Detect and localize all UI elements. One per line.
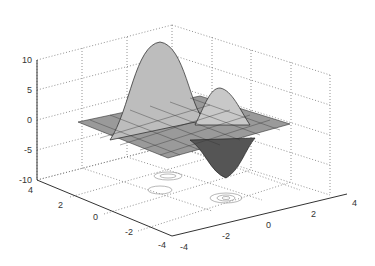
z-tick-label: 5 <box>27 85 32 95</box>
y-tick-label: 4 <box>28 185 33 195</box>
x-tick-label: -2 <box>222 231 230 241</box>
x-axis: -4 -2 0 2 4 <box>172 194 357 252</box>
y-tick-label: 2 <box>58 200 63 210</box>
surface-plot: 10 5 0 -5 -10 4 2 0 -2 -4 -4 -2 0 2 4 <box>0 0 375 266</box>
y-tick-label: -2 <box>125 227 133 237</box>
z-tick-label: -10 <box>19 175 32 185</box>
y-tick-label: -4 <box>158 240 166 250</box>
x-tick-label: 2 <box>311 209 316 219</box>
surface-plot-figure: 10 5 0 -5 -10 4 2 0 -2 -4 -4 -2 0 2 4 <box>0 0 375 266</box>
y-tick-label: 0 <box>93 212 98 222</box>
surface-mesh <box>78 42 290 178</box>
x-tick-label: 4 <box>352 198 357 208</box>
x-tick-label: -4 <box>180 242 188 252</box>
z-tick-label: 0 <box>27 115 32 125</box>
z-tick-label: 10 <box>22 55 32 65</box>
z-axis: 10 5 0 -5 -10 <box>19 55 37 185</box>
x-tick-label: 0 <box>266 220 271 230</box>
z-tick-label: -5 <box>24 145 32 155</box>
